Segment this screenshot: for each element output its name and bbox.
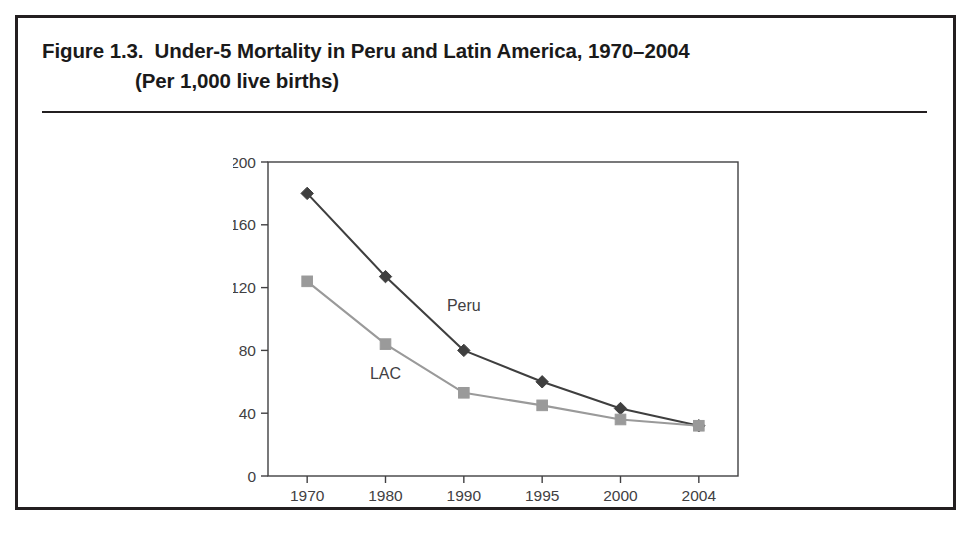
chart-plot-area: 04080120160200 197019801990199520002004 …	[233, 143, 753, 503]
y-axis: 04080120160200	[233, 154, 268, 485]
data-point-peru-1995	[536, 376, 548, 388]
y-axis-tick-label: 40	[239, 405, 257, 422]
x-axis-tick-label: 1995	[525, 487, 559, 503]
data-point-lac-1995	[537, 400, 548, 411]
x-axis-tick-label: 1990	[447, 487, 482, 503]
title-divider-rule	[42, 111, 927, 113]
y-axis-tick-label: 160	[233, 216, 256, 233]
data-point-lac-2000	[615, 414, 626, 425]
figure-root: Figure 1.3. Under-5 Mortality in Peru an…	[0, 0, 977, 544]
x-axis-tick-label: 1970	[290, 487, 325, 503]
plot-border	[268, 162, 738, 476]
x-axis-tick-label: 1980	[368, 487, 403, 503]
y-axis-tick-label: 80	[239, 342, 257, 359]
data-point-lac-1970	[302, 276, 313, 287]
x-axis-tick-label: 2000	[603, 487, 638, 503]
line-chart-svg: 04080120160200 197019801990199520002004 …	[233, 143, 753, 503]
y-axis-tick-label: 0	[247, 468, 256, 485]
x-axis-tick-label: 2004	[682, 487, 717, 503]
y-axis-tick-label: 120	[233, 279, 256, 296]
data-point-peru-2000	[614, 402, 626, 414]
series-layer	[301, 187, 705, 432]
figure-title-line-2: (Per 1,000 live births)	[42, 66, 902, 96]
data-point-lac-2004	[694, 420, 705, 431]
figure-frame: Figure 1.3. Under-5 Mortality in Peru an…	[15, 15, 956, 510]
series-annotation-peru: Peru	[447, 297, 481, 314]
data-point-lac-1980	[380, 339, 391, 350]
figure-title-line-1: Figure 1.3. Under-5 Mortality in Peru an…	[42, 36, 902, 66]
series-line-lac	[307, 281, 699, 425]
series-line-peru	[307, 193, 699, 425]
series-annotation-lac: LAC	[370, 365, 401, 382]
figure-title-block: Figure 1.3. Under-5 Mortality in Peru an…	[42, 36, 902, 96]
y-axis-tick-label: 200	[233, 154, 256, 171]
data-point-lac-1990	[459, 387, 470, 398]
x-axis: 197019801990199520002004	[290, 476, 717, 503]
plot-frame	[268, 162, 738, 476]
